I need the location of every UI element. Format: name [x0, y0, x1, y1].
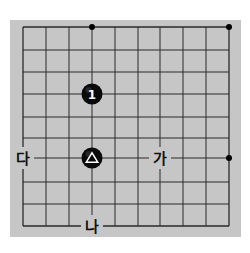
- go-board-diagram: 가나다 1: [0, 0, 250, 253]
- star-point-icon: [226, 155, 232, 161]
- label-da: 다: [16, 150, 30, 168]
- star-point-icon: [226, 24, 232, 30]
- label-ga: 가: [153, 150, 167, 168]
- black-stone-1: 1: [82, 84, 103, 105]
- star-point-icon: [89, 24, 95, 30]
- black-stone-icon: [82, 148, 103, 169]
- label-na: 나: [85, 218, 99, 236]
- move-number: 1: [88, 88, 96, 102]
- black-stone-triangle: [82, 148, 103, 169]
